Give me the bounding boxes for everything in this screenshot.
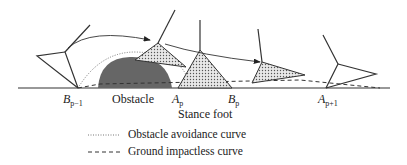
leg-swing-start (65, 25, 90, 88)
gait-diagram: Bp−1 Obstacle Ap Bp Ap+1 Stance foot Obs… (0, 0, 407, 165)
stance-foot (178, 50, 232, 88)
label-a-p: Ap (172, 92, 183, 108)
leg-swing-end (323, 35, 338, 88)
label-stance-foot: Stance foot (178, 107, 232, 122)
motion-arrow-2 (165, 44, 260, 62)
legend-obstacle-avoidance: Obstacle avoidance curve (128, 128, 246, 140)
label-b-prev: Bp−1 (63, 92, 83, 108)
diagram-canvas (0, 0, 407, 165)
legend-ground-impactless: Ground impactless curve (128, 145, 243, 157)
label-a-next: Ap+1 (318, 92, 338, 108)
label-obstacle: Obstacle (112, 92, 154, 107)
label-b-p: Bp (228, 92, 239, 108)
motion-arrow-1 (68, 36, 150, 49)
